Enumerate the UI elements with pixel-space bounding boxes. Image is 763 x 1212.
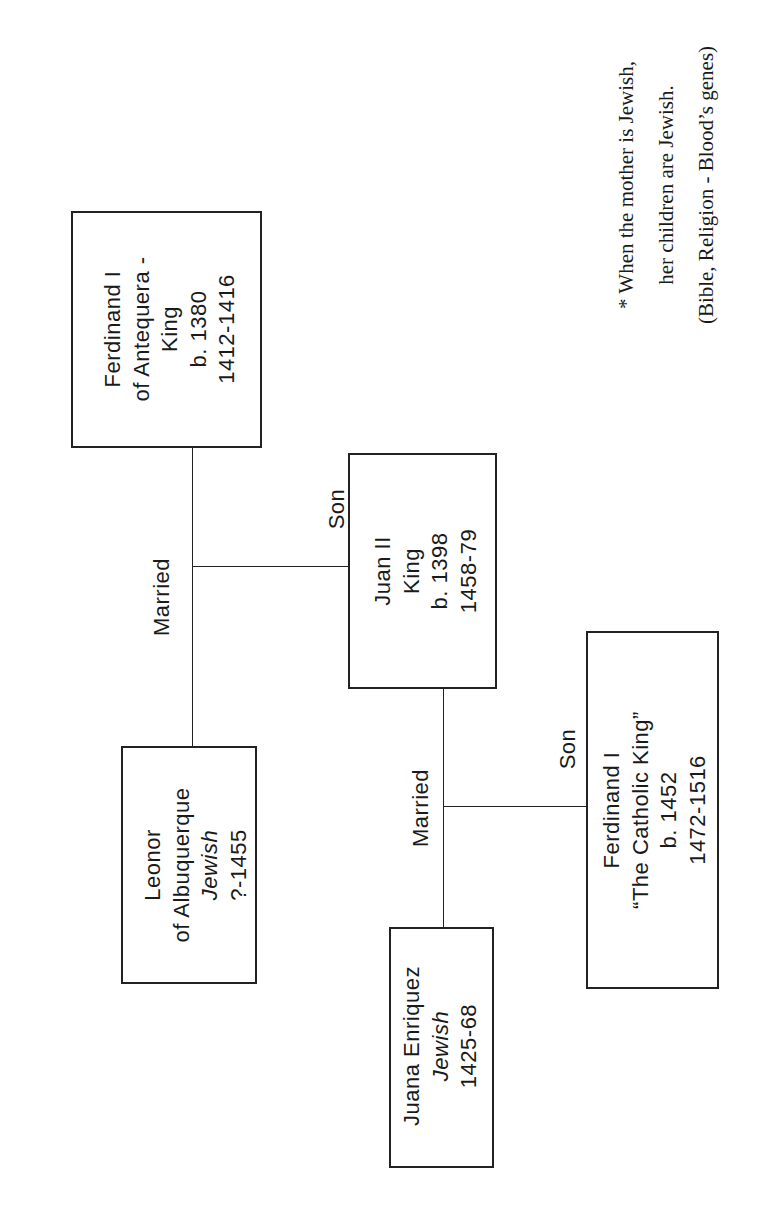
dates-line: 1425-68	[455, 966, 484, 1126]
relation-label-married-2: Married	[407, 769, 436, 847]
name-line: Leonor	[139, 787, 168, 942]
title-line: of Antequera -	[127, 256, 156, 401]
person-label-ferdinand-catholic: Ferdinand I “The Catholic King” b. 1452 …	[598, 711, 712, 909]
role-line: King	[398, 529, 427, 613]
footnote: * When the mother is Jewish, her childre…	[606, 46, 726, 324]
person-label-juan-ii: Juan II King b. 1398 1458-79	[369, 529, 483, 613]
name-line: Ferdinand I	[99, 256, 128, 401]
person-label-juana-enriquez: Juana Enriquez Jewish 1425-68	[398, 966, 484, 1126]
reign-line: 1472-1516	[684, 711, 713, 909]
marriage-connector-1	[192, 447, 193, 747]
relation-label-married-1: Married	[148, 558, 177, 636]
birth-line: b. 1380	[184, 256, 213, 401]
person-label-ferdinand-antequera: Ferdinand I of Antequera - King b. 1380 …	[99, 256, 242, 401]
reign-line: 1412-1416	[213, 256, 242, 401]
role-line: King	[156, 256, 185, 401]
family-tree-diagram: Ferdinand I of Antequera - King b. 1380 …	[0, 0, 763, 1212]
name-line: Ferdinand I	[598, 711, 627, 909]
footnote-line-1: * When the mother is Jewish,	[606, 46, 646, 324]
child-connector-1	[192, 566, 349, 567]
reign-line: 1458-79	[455, 529, 484, 613]
footnote-line-2: her children are Jewish.	[646, 46, 686, 324]
birth-line: b. 1398	[426, 529, 455, 613]
marriage-connector-2	[443, 688, 444, 928]
footnote-line-3: (Bible, Religion - Blood’s genes)	[686, 46, 726, 324]
name-line: Juan II	[369, 529, 398, 613]
title-line: of Albuquerque	[168, 787, 197, 942]
birth-line: b. 1452	[655, 711, 684, 909]
religion-line: Jewish	[196, 787, 225, 942]
religion-line: Jewish	[427, 966, 456, 1126]
person-label-leonor: Leonor of Albuquerque Jewish ?-1455	[139, 787, 253, 942]
dates-line: ?-1455	[225, 787, 254, 942]
title-line: “The Catholic King”	[627, 711, 656, 909]
relation-label-son-1: Son	[323, 489, 352, 530]
relation-label-son-2: Son	[554, 729, 583, 770]
name-line: Juana Enriquez	[398, 966, 427, 1126]
child-connector-2	[443, 806, 588, 807]
